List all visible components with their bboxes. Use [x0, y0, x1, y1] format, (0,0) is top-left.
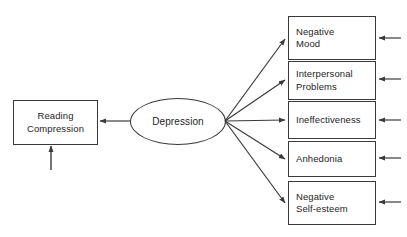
path-depression-to-anhedonia — [225, 121, 285, 159]
path-depression-to-negative-self-esteem — [225, 121, 285, 203]
node-depression[interactable]: Depression — [130, 98, 226, 145]
node-label-reading-compression: Reading Compression — [27, 110, 84, 135]
node-label-interpersonal-problems: Interpersonal Problems — [296, 68, 353, 93]
node-anhedonia[interactable]: Anhedonia — [288, 141, 376, 177]
node-ineffectiveness[interactable]: Ineffectiveness — [288, 101, 376, 139]
node-interpersonal-problems[interactable]: Interpersonal Problems — [288, 61, 376, 100]
node-negative-mood[interactable]: Negative Mood — [288, 16, 376, 60]
node-label-negative-self-esteem: Negative Self-esteem — [296, 191, 348, 216]
node-reading-compression[interactable]: Reading Compression — [13, 100, 98, 145]
node-negative-self-esteem[interactable]: Negative Self-esteem — [288, 181, 376, 225]
node-label-ineffectiveness: Ineffectiveness — [296, 114, 361, 127]
path-depression-to-interpersonal-problems — [225, 80, 285, 121]
path-depression-to-negative-mood — [225, 39, 285, 121]
node-label-negative-mood: Negative Mood — [296, 26, 334, 51]
node-label-anhedonia: Anhedonia — [296, 153, 342, 166]
path-diagram: Reading Compression Depression Negative … — [0, 0, 407, 237]
node-label-depression: Depression — [152, 116, 204, 127]
path-depression-to-ineffectiveness — [225, 120, 285, 121]
